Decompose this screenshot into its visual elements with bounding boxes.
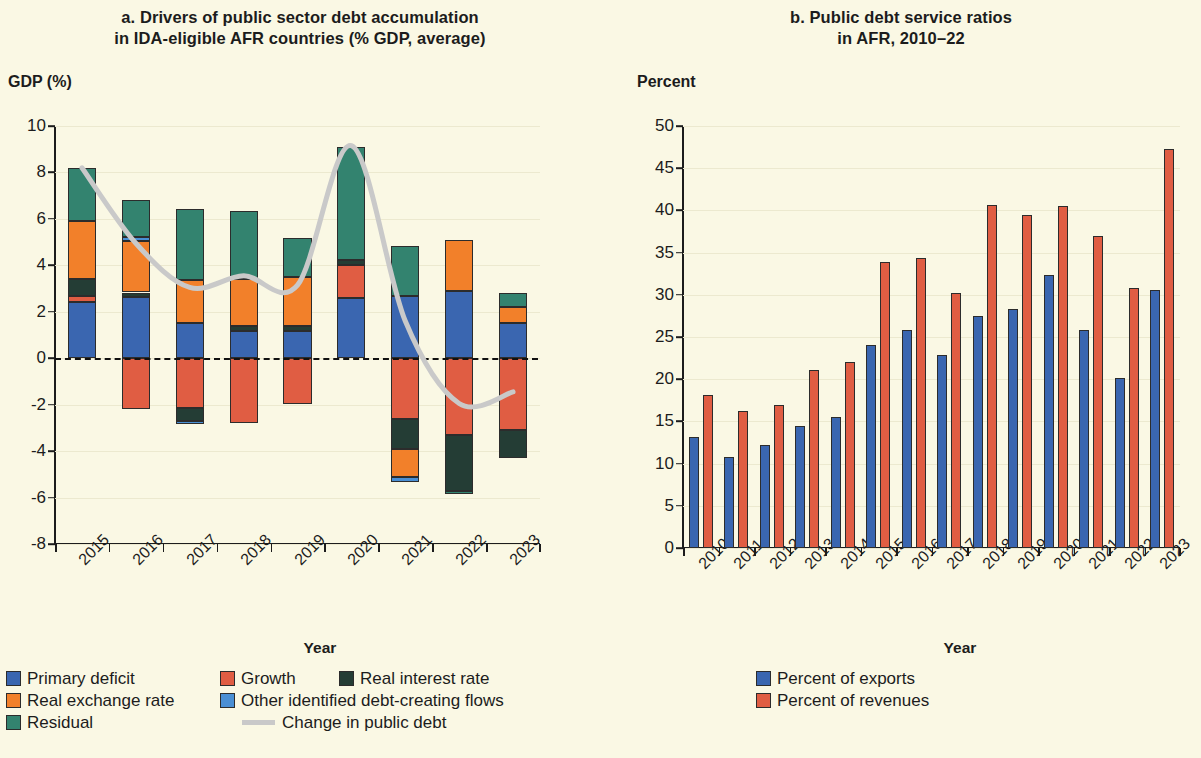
legend-row: Primary deficitGrowthReal interest rate bbox=[6, 670, 616, 687]
bar-2016-exports bbox=[902, 330, 912, 548]
x-tick-mark bbox=[324, 544, 326, 552]
y-tick-label: 40 bbox=[655, 200, 674, 220]
legend-row: ResidualChange in public debt bbox=[6, 714, 616, 731]
panel-a-plot-area: -8-6-4-202468102015201620172018201920202… bbox=[55, 126, 540, 544]
x-tick-mark bbox=[1145, 548, 1147, 556]
legend-item-percent-of-revenues[interactable]: Percent of revenues bbox=[756, 692, 929, 709]
y-tick-mark bbox=[676, 336, 683, 338]
bar-2021-revenues bbox=[1093, 236, 1103, 548]
legend-item-residual[interactable]: Residual bbox=[6, 714, 206, 731]
legend-swatch bbox=[756, 671, 771, 686]
legend-swatch bbox=[6, 715, 21, 730]
bar-2019-revenues bbox=[1022, 215, 1032, 548]
y-tick-label: -8 bbox=[31, 534, 46, 554]
x-tick-mark bbox=[932, 548, 934, 556]
panel-a-x-axis-label: Year bbox=[120, 639, 520, 657]
gridline bbox=[683, 126, 1180, 127]
x-tick-mark bbox=[896, 548, 898, 556]
bar-2012-exports bbox=[760, 445, 770, 548]
x-tick-mark bbox=[432, 544, 434, 552]
legend-label: Other identified debt-creating flows bbox=[241, 692, 504, 709]
bar-2015-revenues bbox=[880, 262, 890, 548]
x-tick-mark bbox=[217, 544, 219, 552]
y-tick-label: 35 bbox=[655, 243, 674, 263]
y-tick-label: 15 bbox=[655, 411, 674, 431]
y-tick-mark bbox=[676, 210, 683, 212]
legend-item-growth[interactable]: Growth bbox=[220, 670, 325, 687]
gridline bbox=[683, 464, 1180, 465]
legend-swatch bbox=[756, 693, 771, 708]
bar-2012-revenues bbox=[774, 405, 784, 548]
bar-2013-exports bbox=[795, 426, 805, 548]
legend-swatch bbox=[220, 671, 235, 686]
x-tick-mark bbox=[754, 548, 756, 556]
legend-item-real-exchange-rate[interactable]: Real exchange rate bbox=[6, 692, 206, 709]
x-tick-mark bbox=[719, 548, 721, 556]
bar-2014-exports bbox=[831, 417, 841, 548]
gridline bbox=[683, 337, 1180, 338]
bar-2018-revenues bbox=[987, 205, 997, 548]
y-tick-mark bbox=[48, 125, 55, 127]
panel-b-title: b. Public debt service ratios in AFR, 20… bbox=[601, 7, 1201, 49]
legend-item-change-in-public-debt[interactable]: Change in public debt bbox=[242, 714, 446, 731]
panel-a-y-axis-label: GDP (%) bbox=[8, 73, 72, 91]
y-tick-mark bbox=[48, 172, 55, 174]
bar-2014-revenues bbox=[845, 362, 855, 548]
bar-2016-revenues bbox=[916, 258, 926, 548]
legend-label: Residual bbox=[27, 714, 93, 731]
legend-item-real-interest-rate[interactable]: Real interest rate bbox=[339, 670, 489, 687]
legend-label: Real interest rate bbox=[360, 670, 489, 687]
x-tick-mark bbox=[539, 544, 541, 552]
bar-2020-exports bbox=[1044, 275, 1054, 548]
bar-2021-exports bbox=[1079, 330, 1089, 548]
panel-b-title-line1: b. Public debt service ratios bbox=[601, 7, 1201, 28]
y-tick-label: 10 bbox=[27, 116, 46, 136]
y-tick-label: 0 bbox=[37, 348, 46, 368]
bar-2011-exports bbox=[724, 457, 734, 548]
legend-item-other-identified-debt-creating-flows[interactable]: Other identified debt-creating flows bbox=[220, 692, 504, 709]
y-tick-mark bbox=[676, 167, 683, 169]
legend-row: Real exchange rateOther identified debt-… bbox=[6, 692, 616, 709]
y-tick-mark bbox=[48, 311, 55, 313]
legend-item-primary-deficit[interactable]: Primary deficit bbox=[6, 670, 206, 687]
gridline bbox=[683, 210, 1180, 211]
y-tick-mark bbox=[48, 357, 55, 359]
y-tick-label: 20 bbox=[655, 369, 674, 389]
y-tick-mark bbox=[48, 265, 55, 267]
y-tick-label: -6 bbox=[31, 488, 46, 508]
gridline bbox=[683, 295, 1180, 296]
legend-swatch bbox=[220, 693, 235, 708]
y-tick-label: 4 bbox=[37, 255, 46, 275]
x-tick-label-2023: 2023 bbox=[1156, 535, 1194, 573]
y-tick-mark bbox=[48, 497, 55, 499]
gridline bbox=[683, 506, 1180, 507]
x-tick-mark bbox=[1109, 548, 1111, 556]
y-tick-label: -2 bbox=[31, 395, 46, 415]
y-tick-mark bbox=[676, 125, 683, 127]
legend-line-marker bbox=[242, 720, 275, 725]
y-tick-label: 6 bbox=[37, 209, 46, 229]
bar-2019-exports bbox=[1008, 309, 1018, 548]
gridline bbox=[683, 168, 1180, 169]
legend-label: Real exchange rate bbox=[27, 692, 174, 709]
x-tick-mark bbox=[55, 544, 57, 552]
y-tick-mark bbox=[676, 294, 683, 296]
bar-2023-revenues bbox=[1164, 149, 1174, 548]
legend-row: Percent of revenues bbox=[756, 692, 1186, 709]
panel-b-x-axis-label: Year bbox=[760, 639, 1160, 657]
y-tick-label: 25 bbox=[655, 327, 674, 347]
y-tick-mark bbox=[676, 547, 683, 549]
gridline bbox=[683, 421, 1180, 422]
panel-b-legend: Percent of exportsPercent of revenues bbox=[756, 670, 1186, 714]
chart-page: a. Drivers of public sector debt accumul… bbox=[0, 0, 1201, 758]
y-tick-mark bbox=[676, 463, 683, 465]
bar-2018-exports bbox=[973, 316, 983, 548]
x-tick-mark bbox=[1074, 548, 1076, 556]
x-tick-mark bbox=[967, 548, 969, 556]
legend-item-percent-of-exports[interactable]: Percent of exports bbox=[756, 670, 915, 687]
y-tick-mark bbox=[48, 404, 55, 406]
y-tick-mark bbox=[676, 378, 683, 380]
x-tick-mark bbox=[378, 544, 380, 552]
y-tick-mark bbox=[48, 218, 55, 220]
bar-2022-exports bbox=[1115, 378, 1125, 548]
